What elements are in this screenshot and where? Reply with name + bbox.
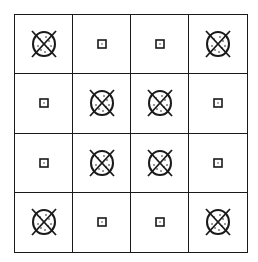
small-square-icon bbox=[38, 97, 50, 109]
grid-cell-r2-c2 bbox=[73, 74, 131, 133]
small-square-icon bbox=[38, 157, 50, 169]
crossed-dotted-circle-icon bbox=[84, 85, 120, 121]
grid-cell-r2-c1 bbox=[15, 74, 73, 133]
grid-cell-r3-c1 bbox=[15, 134, 73, 193]
grid-cell-r4-c2 bbox=[73, 193, 131, 252]
crossed-dotted-circle-icon bbox=[26, 204, 62, 240]
grid-cell-r3-c3 bbox=[131, 134, 189, 193]
grid-cell-r4-c4 bbox=[189, 193, 247, 252]
grid-cell-r1-c4 bbox=[189, 15, 247, 74]
crossed-dotted-circle-icon bbox=[26, 26, 62, 62]
grid-cell-r3-c4 bbox=[189, 134, 247, 193]
crossed-dotted-circle-icon bbox=[84, 145, 120, 181]
grid-cell-r1-c3 bbox=[131, 15, 189, 74]
small-square-icon bbox=[212, 157, 224, 169]
crossed-dotted-circle-icon bbox=[200, 26, 236, 62]
crossed-dotted-circle-icon bbox=[142, 85, 178, 121]
grid-cell-r2-c3 bbox=[131, 74, 189, 133]
grid-cell-r3-c2 bbox=[73, 134, 131, 193]
small-square-icon bbox=[154, 216, 166, 228]
grid-cell-r1-c2 bbox=[73, 15, 131, 74]
symbol-grid bbox=[14, 14, 248, 253]
grid-cell-r1-c1 bbox=[15, 15, 73, 74]
small-square-icon bbox=[96, 38, 108, 50]
grid-cell-r4-c1 bbox=[15, 193, 73, 252]
crossed-dotted-circle-icon bbox=[142, 145, 178, 181]
small-square-icon bbox=[154, 38, 166, 50]
crossed-dotted-circle-icon bbox=[200, 204, 236, 240]
small-square-icon bbox=[212, 97, 224, 109]
grid-cell-r4-c3 bbox=[131, 193, 189, 252]
small-square-icon bbox=[96, 216, 108, 228]
grid-cell-r2-c4 bbox=[189, 74, 247, 133]
